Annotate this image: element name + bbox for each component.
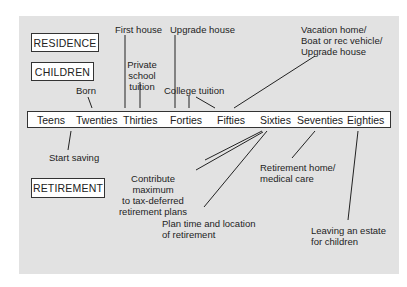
estate-line2: for children: [311, 236, 386, 247]
decade-teens: Teens: [37, 114, 65, 126]
label-vacation-home: Vacation home/ Boat or rec vehicle/ Upgr…: [301, 24, 382, 57]
ret-home-line2: medical care: [260, 173, 336, 184]
vacation-line3: Upgrade house: [301, 46, 382, 57]
retirement-box: RETIREMENT: [31, 178, 105, 198]
private-school-line1: Private school: [113, 59, 171, 81]
ret-home-line1: Retirement home/: [260, 162, 336, 173]
decade-twenties: Twenties: [76, 114, 117, 126]
label-leaving-estate: Leaving an estate for children: [311, 225, 386, 247]
vacation-line2: Boat or rec vehicle/: [301, 35, 382, 46]
label-retirement-home: Retirement home/ medical care: [260, 162, 336, 184]
label-contribute-max: Contribute maximum to tax-deferred retir…: [111, 173, 195, 217]
label-start-saving: Start saving: [49, 152, 99, 163]
label-college-tuition: College tuition: [164, 85, 224, 96]
retirement-label: RETIREMENT: [33, 182, 103, 194]
label-upgrade-house: Upgrade house: [170, 24, 235, 35]
label-first-house: First house: [115, 24, 162, 35]
contribute-line1: Contribute maximum: [111, 173, 195, 195]
vacation-line1: Vacation home/: [301, 24, 382, 35]
decade-seventies: Seventies: [297, 114, 343, 126]
label-born: Born: [76, 85, 96, 96]
children-box: CHILDREN: [31, 62, 94, 81]
decade-fifties: Fifties: [217, 114, 245, 126]
decade-forties: Forties: [170, 114, 202, 126]
children-label: CHILDREN: [35, 66, 90, 78]
estate-line1: Leaving an estate: [311, 225, 386, 236]
contribute-line3: retirement plans: [111, 206, 195, 217]
label-plan-retirement: Plan time and location of retirement: [162, 218, 255, 240]
residence-box: RESIDENCE: [31, 33, 99, 52]
decade-eighties: Eighties: [347, 114, 384, 126]
plan-line1: Plan time and location: [162, 218, 255, 229]
private-school-line2: tuition: [113, 81, 171, 92]
decade-thirties: Thirties: [123, 114, 157, 126]
contribute-line2: to tax-deferred: [111, 195, 195, 206]
decade-sixties: Sixties: [260, 114, 291, 126]
plan-line2: of retirement: [162, 229, 255, 240]
residence-label: RESIDENCE: [33, 37, 96, 49]
label-private-school: Private school tuition: [113, 59, 171, 92]
